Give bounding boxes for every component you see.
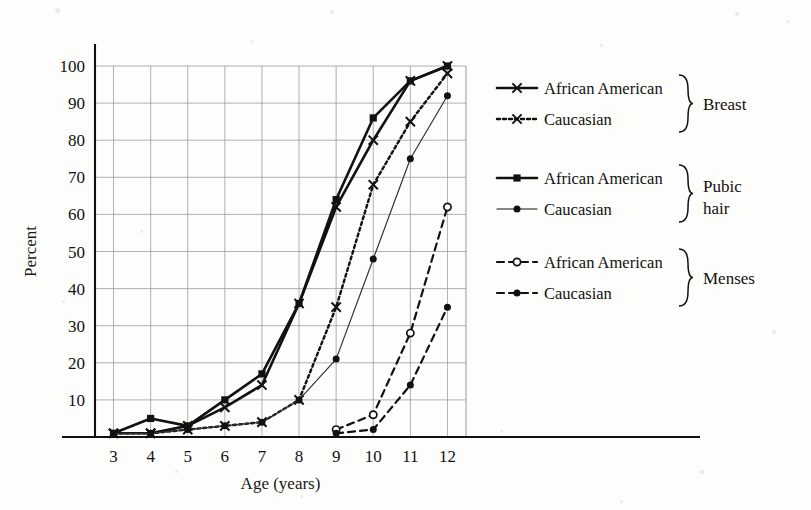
- y-axis-tick-label: 20: [68, 354, 85, 373]
- y-axis-tick-label: 10: [68, 391, 85, 410]
- series-line: [114, 66, 448, 433]
- marker-square: [444, 62, 451, 69]
- legend-group-label: Pubic: [703, 177, 742, 196]
- y-axis-tick-label: 100: [60, 57, 86, 76]
- scan-speck: [620, 500, 623, 503]
- marker-circle-filled: [221, 422, 228, 429]
- marker-square: [370, 114, 377, 121]
- legend-item-label: African American: [544, 169, 663, 188]
- marker-circle-filled: [147, 430, 154, 437]
- series-3: [110, 62, 451, 436]
- x-axis-title: Age (years): [241, 474, 321, 493]
- marker-square: [147, 415, 154, 422]
- series-6: [333, 304, 451, 437]
- marker-circle-filled: [407, 382, 414, 389]
- x-axis-tick-label: 8: [295, 447, 304, 466]
- y-axis-tick-label: 40: [68, 280, 85, 299]
- legend-item-label: African American: [544, 253, 663, 272]
- marker-circle-filled: [514, 290, 521, 297]
- scan-speck: [140, 230, 143, 233]
- x-axis-tick-label: 9: [332, 447, 341, 466]
- legend-item[interactable]: Caucasian: [497, 200, 612, 219]
- legend-item[interactable]: Caucasian: [497, 284, 612, 303]
- scan-speck: [250, 40, 253, 43]
- scan-speck: [600, 44, 603, 47]
- marker-square: [333, 196, 340, 203]
- y-axis-tick-label: 70: [68, 168, 85, 187]
- y-axis-tick-label: 80: [68, 131, 85, 150]
- scan-speck: [330, 10, 334, 14]
- x-axis-tick-label: 12: [439, 447, 456, 466]
- tick-labels: 1020304050607080901003456789101112: [60, 57, 456, 466]
- marker-circle-filled: [296, 396, 303, 403]
- x-axis-tick-label: 7: [258, 447, 267, 466]
- marker-circle-filled: [184, 426, 191, 433]
- chart-figure: 1020304050607080901003456789101112Age (y…: [0, 0, 811, 510]
- legend-group-brace: [679, 75, 693, 132]
- marker-square: [513, 174, 520, 181]
- series-line: [336, 207, 447, 430]
- y-axis-tick-label: 50: [68, 243, 85, 262]
- legend-group-brace: [679, 165, 693, 222]
- legend-group-label: hair: [703, 199, 730, 218]
- marker-square: [258, 370, 265, 377]
- series-1: [109, 61, 452, 437]
- marker-circle-filled: [333, 356, 340, 363]
- x-axis-tick-label: 4: [146, 447, 155, 466]
- marker-square: [221, 396, 228, 403]
- data-series-group: [109, 61, 452, 437]
- marker-circle-filled: [444, 92, 451, 99]
- scan-speck: [786, 20, 789, 23]
- scan-speck: [772, 330, 776, 334]
- legend-item-label: Caucasian: [544, 200, 612, 219]
- x-axis-tick-label: 6: [221, 447, 230, 466]
- scan-speck: [500, 430, 503, 433]
- scan-speck: [300, 495, 303, 498]
- marker-circle-filled: [444, 304, 451, 311]
- legend: African AmericanCaucasianBreastAfrican A…: [497, 75, 755, 306]
- marker-circle-filled: [333, 430, 340, 437]
- marker-circle-filled: [370, 426, 377, 433]
- series-5: [333, 203, 452, 433]
- y-axis-title: Percent: [21, 226, 40, 277]
- legend-item[interactable]: African American: [497, 169, 663, 188]
- marker-circle-open: [370, 411, 377, 418]
- x-axis-tick-label: 11: [402, 447, 418, 466]
- x-axis-tick-label: 5: [184, 447, 193, 466]
- legend-group-label: Menses: [703, 269, 755, 288]
- legend-item[interactable]: African American: [497, 253, 663, 272]
- marker-circle-filled: [258, 419, 265, 426]
- legend-item[interactable]: Caucasian: [497, 110, 612, 129]
- legend-group-label: Breast: [703, 95, 747, 114]
- marker-square: [407, 77, 414, 84]
- x-axis-tick-label: 10: [365, 447, 382, 466]
- scan-speck: [62, 300, 65, 303]
- scan-speck: [55, 8, 60, 13]
- series-2: [109, 69, 452, 438]
- legend-group-pubic-hair: African AmericanCaucasianPubichair: [497, 165, 742, 222]
- series-4: [110, 92, 451, 437]
- x-axis-tick-label: 3: [109, 447, 118, 466]
- y-axis-tick-label: 90: [68, 94, 85, 113]
- marker-square: [295, 300, 302, 307]
- legend-group-breast: African AmericanCaucasianBreast: [497, 75, 747, 132]
- scan-speck: [700, 470, 704, 474]
- marker-circle-open: [444, 203, 451, 210]
- series-line: [114, 96, 448, 434]
- series-line: [114, 73, 448, 433]
- marker-circle-filled: [514, 206, 521, 213]
- marker-circle-open: [407, 330, 414, 337]
- legend-item-label: Caucasian: [544, 284, 612, 303]
- legend-item-label: Caucasian: [544, 110, 612, 129]
- legend-item-label: African American: [544, 79, 663, 98]
- scan-speck: [735, 12, 739, 16]
- legend-item[interactable]: African American: [497, 79, 663, 98]
- y-axis-tick-label: 30: [68, 317, 85, 336]
- marker-circle-filled: [110, 430, 117, 437]
- marker-circle-open: [513, 258, 520, 265]
- marker-circle-filled: [407, 155, 414, 162]
- legend-group-brace: [679, 249, 693, 306]
- series-line: [114, 66, 448, 433]
- legend-group-menses: African AmericanCaucasianMenses: [497, 249, 755, 306]
- y-axis-tick-label: 60: [68, 205, 85, 224]
